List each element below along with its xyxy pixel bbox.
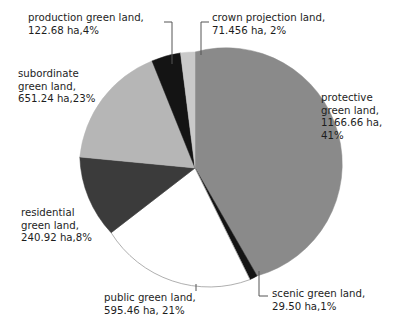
pie-chart-canvas: [0, 0, 403, 334]
slice-label-scenic: scenic green land, 29.50 ha,1%: [272, 288, 402, 313]
slice-label-subordinate: subordinate green land, 651.24 ha,23%: [18, 68, 128, 106]
slice-label-protective: protective green land, 1166.66 ha, 41%: [321, 92, 401, 142]
slice-label-residential: residential green land, 240.92 ha,8%: [21, 207, 126, 245]
slice-label-crown-projection: crown projection land, 71.456 ha, 2%: [212, 12, 392, 37]
slice-label-public: public green land, 595.46 ha, 21%: [104, 292, 234, 317]
slice-label-production: production green land, 122.68 ha,4%: [28, 12, 196, 37]
pie-chart-figure: production green land, 122.68 ha,4% crow…: [0, 0, 403, 334]
